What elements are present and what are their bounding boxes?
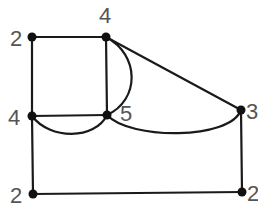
node-c <box>28 112 37 121</box>
node-b <box>102 33 111 42</box>
label-b: 4 <box>99 3 111 28</box>
edge-b-d-straight <box>106 37 107 115</box>
graph-diagram: 2 4 4 5 3 2 2 <box>0 0 258 211</box>
edge-c-f <box>32 116 33 194</box>
label-f: 2 <box>10 183 22 208</box>
label-e: 3 <box>246 99 258 124</box>
edge-f-g <box>33 192 242 194</box>
label-d: 5 <box>120 101 132 126</box>
node-d <box>103 111 112 120</box>
edge-e-g <box>241 110 242 192</box>
node-g <box>238 188 247 197</box>
edge-c-d-curved <box>32 115 107 134</box>
node-f <box>29 190 38 199</box>
node-e <box>237 106 246 115</box>
node-a <box>28 33 37 42</box>
label-a: 2 <box>10 26 22 51</box>
label-g: 2 <box>247 181 258 206</box>
label-c: 4 <box>8 105 20 130</box>
edge-c-d-straight <box>32 115 107 116</box>
